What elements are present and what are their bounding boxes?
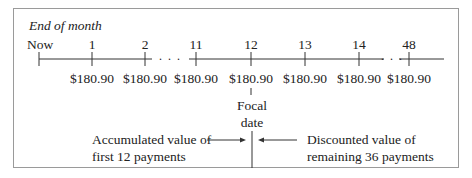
ellipsis-2: · · · (381, 53, 404, 65)
discounted-note-line1: Discounted value of (307, 133, 416, 147)
tick-label-48: 48 (402, 38, 416, 52)
payment-1: $180.90 (70, 72, 114, 86)
tick-label-11: 11 (190, 38, 203, 52)
end-of-month-label: End of month (29, 19, 102, 33)
ellipsis-1: · · · (159, 53, 182, 65)
focal-label-line2: date (241, 116, 264, 130)
accumulated-note-line2: first 12 payments (92, 150, 186, 164)
accumulated-note-line1: Accumulated value of (92, 133, 211, 147)
tick-label-2: 2 (142, 38, 149, 52)
tick-label-1: 1 (89, 38, 96, 52)
payment-13: $180.90 (283, 72, 327, 86)
payment-11: $180.90 (174, 72, 218, 86)
discounted-note-line2: remaining 36 payments (307, 150, 434, 164)
focal-label-line1: Focal (237, 99, 267, 113)
payment-12: $180.90 (229, 72, 273, 86)
payment-14: $180.90 (337, 72, 381, 86)
tick-label-14: 14 (352, 38, 366, 52)
payment-2: $180.90 (123, 72, 167, 86)
payment-48: $180.90 (387, 72, 431, 86)
tick-label-now: Now (27, 38, 53, 52)
tick-label-12: 12 (244, 38, 258, 52)
tick-label-13: 13 (298, 38, 312, 52)
